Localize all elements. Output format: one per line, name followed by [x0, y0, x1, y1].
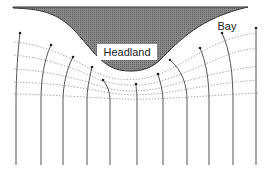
arrowhead-2	[50, 44, 53, 47]
arrowhead-9	[199, 47, 202, 50]
headland-label: Headland	[103, 46, 150, 58]
arrowhead-7	[157, 73, 160, 76]
arrowhead-5	[102, 79, 105, 82]
wave-crest-5	[14, 93, 258, 99]
orthogonal-4	[87, 67, 92, 165]
arrowhead-6	[135, 83, 138, 86]
orthogonal-2	[41, 45, 51, 165]
wave-refraction-diagram: Headland Bay	[0, 0, 269, 173]
arrowhead-10	[221, 32, 224, 35]
orthogonal-8	[170, 60, 187, 165]
arrowhead-11	[255, 27, 258, 30]
orthogonal-6	[136, 84, 137, 165]
arrowhead-8	[169, 59, 172, 62]
arrowhead-1	[19, 32, 22, 35]
orthogonal-1	[16, 33, 20, 165]
orthogonal-3	[63, 57, 73, 165]
arrowhead-3	[72, 56, 75, 59]
arrowhead-4	[91, 66, 94, 69]
orthogonal-5	[103, 80, 110, 165]
headland-landmass	[13, 7, 248, 71]
orthogonal-10	[222, 33, 233, 165]
bay-label: Bay	[218, 20, 237, 32]
